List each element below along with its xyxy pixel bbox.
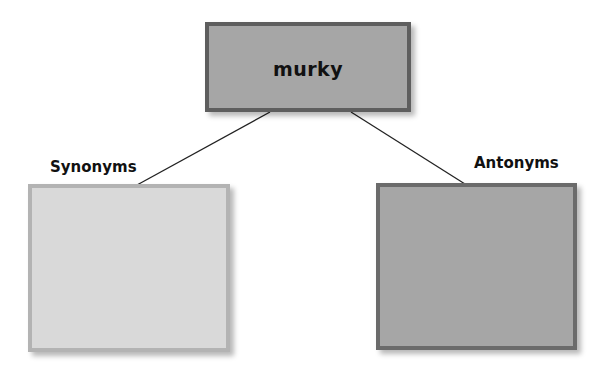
- connector-to-synonyms: [137, 112, 270, 185]
- synonyms-box[interactable]: [28, 184, 230, 352]
- center-word-box: murky: [205, 22, 411, 112]
- synonyms-label: Synonyms: [50, 158, 137, 176]
- antonyms-label: Antonyms: [474, 154, 559, 172]
- antonyms-box[interactable]: [376, 183, 577, 350]
- center-word: murky: [273, 58, 343, 80]
- connector-to-antonyms: [351, 112, 465, 184]
